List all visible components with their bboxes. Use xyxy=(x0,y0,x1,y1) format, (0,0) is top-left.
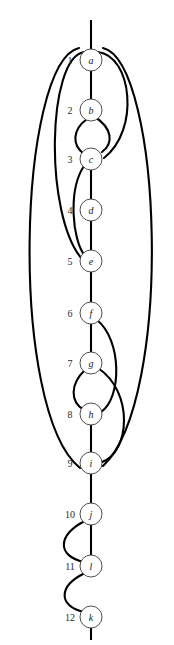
knot-diagram-canvas: 1a2b3c4d5e6f7g8h9i10j11l12k xyxy=(0,0,174,645)
diagram-svg: 1a2b3c4d5e6f7g8h9i10j11l12k xyxy=(0,0,174,645)
node-f[interactable]: f xyxy=(80,302,102,324)
node-index-12: 12 xyxy=(65,612,75,623)
node-index-7: 7 xyxy=(68,358,73,369)
edge-arc-b-c-left xyxy=(75,119,87,154)
node-b[interactable]: b xyxy=(80,99,102,121)
node-g[interactable]: g xyxy=(80,352,102,374)
node-label-g: g xyxy=(89,358,94,369)
node-c[interactable]: c xyxy=(80,148,102,170)
node-label-k: k xyxy=(89,612,94,623)
node-label-i: i xyxy=(90,458,93,469)
edge-arc-g-h-left xyxy=(74,370,85,410)
node-label-h: h xyxy=(89,409,94,420)
node-e[interactable]: e xyxy=(80,250,102,272)
edge-arc-l-k-left xyxy=(65,573,85,612)
node-a[interactable]: a xyxy=(80,49,102,71)
node-label-l: l xyxy=(90,561,93,572)
node-index-3: 3 xyxy=(68,154,73,165)
node-index-8: 8 xyxy=(68,409,73,420)
node-d[interactable]: d xyxy=(80,199,102,221)
node-label-e: e xyxy=(89,256,94,267)
node-index-9: 9 xyxy=(68,458,73,469)
node-label-c: c xyxy=(89,154,94,165)
node-index-2: 2 xyxy=(68,105,73,116)
node-index-1: 1 xyxy=(68,55,73,66)
node-i[interactable]: i xyxy=(80,452,102,474)
edge-arc-j-l-left xyxy=(64,521,85,562)
node-j[interactable]: j xyxy=(80,503,102,525)
node-index-5: 5 xyxy=(68,256,73,267)
edge-arc-b-c-right xyxy=(95,117,110,152)
node-h[interactable]: h xyxy=(80,403,102,425)
node-k[interactable]: k xyxy=(80,606,102,628)
node-label-b: b xyxy=(89,105,94,116)
node-index-11: 11 xyxy=(65,561,75,572)
nodes-layer: 1a2b3c4d5e6f7g8h9i10j11l12k xyxy=(65,49,102,628)
node-index-10: 10 xyxy=(65,509,75,520)
node-index-6: 6 xyxy=(68,308,73,319)
node-l[interactable]: l xyxy=(80,555,102,577)
node-label-a: a xyxy=(89,55,94,66)
node-index-4: 4 xyxy=(68,205,73,216)
